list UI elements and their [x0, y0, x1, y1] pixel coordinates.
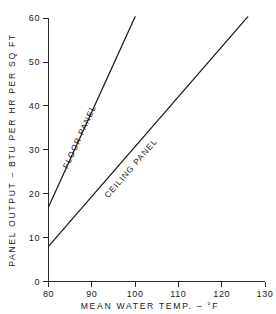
y-axis-title: PANEL OUTPUT – BTU PER HR PER SQ FT [7, 33, 17, 267]
x-tick-label: 110 [170, 289, 186, 299]
y-tick-label: 40 [29, 101, 40, 111]
panel-output-line-chart: 0 10 20 30 40 50 60 80 90 100 110 120 13… [0, 0, 276, 314]
x-tick-label: 100 [127, 289, 144, 299]
y-tick-label: 20 [29, 189, 40, 199]
y-tick-label: 30 [29, 145, 40, 155]
x-axis-title: MEAN WATER TEMP. – °F [81, 301, 220, 311]
x-tick-label: 120 [213, 289, 230, 299]
x-tick-label: 90 [86, 289, 97, 299]
x-tick-label: 130 [257, 289, 274, 299]
y-tick-label: 10 [29, 233, 40, 243]
chart-figure: 0 10 20 30 40 50 60 80 90 100 110 120 13… [0, 0, 276, 314]
y-tick-label: 60 [29, 13, 40, 23]
y-tick-label: 50 [29, 57, 40, 67]
y-tick-label: 0 [34, 277, 40, 287]
x-tick-label: 80 [43, 289, 54, 299]
